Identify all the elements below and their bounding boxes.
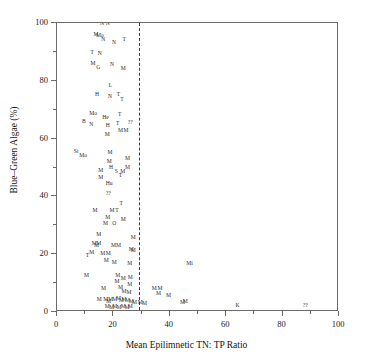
data-point: T bbox=[91, 51, 94, 57]
data-point: M bbox=[93, 208, 98, 214]
data-point: T bbox=[118, 113, 121, 119]
data-point: Mi bbox=[186, 262, 193, 268]
data-point: H bbox=[95, 92, 99, 98]
data-point: M bbox=[121, 277, 126, 283]
x-tick-minor bbox=[197, 311, 198, 314]
data-point: M bbox=[121, 217, 126, 223]
data-point: M bbox=[166, 293, 171, 299]
data-point: K bbox=[235, 303, 239, 309]
data-point: M bbox=[105, 132, 110, 138]
data-point: M bbox=[84, 274, 89, 280]
data-point: T bbox=[116, 121, 119, 127]
x-tick-major bbox=[112, 311, 113, 316]
scatter-plot-figure: Blue–Green Algae (%) 020406080100 NNMMoN… bbox=[0, 0, 373, 363]
y-tick-label: 100 bbox=[22, 17, 48, 27]
data-point: M bbox=[94, 243, 99, 249]
data-point: H bbox=[106, 123, 110, 129]
data-point: T bbox=[120, 97, 123, 103]
x-axis-title: Mean Epilimnetic TN: TP Ratio bbox=[0, 340, 373, 350]
x-tick-label: 20 bbox=[108, 319, 117, 329]
data-point: T bbox=[115, 209, 118, 215]
data-point: M bbox=[125, 165, 130, 171]
data-point: M bbox=[96, 233, 101, 239]
data-point: M bbox=[131, 249, 136, 255]
data-point: M bbox=[112, 260, 117, 266]
data-point: Mo bbox=[89, 111, 97, 117]
data-point: N bbox=[89, 122, 93, 128]
data-point: S bbox=[115, 169, 118, 175]
data-point: M bbox=[124, 129, 129, 135]
data-point: T bbox=[122, 38, 125, 44]
data-point: N bbox=[108, 94, 112, 100]
data-point: M bbox=[103, 222, 108, 228]
x-tick-major bbox=[56, 311, 57, 316]
data-point: T bbox=[119, 173, 122, 179]
x-tick-major bbox=[169, 311, 170, 316]
data-point: M bbox=[127, 262, 132, 268]
x-tick-major bbox=[225, 311, 226, 316]
data-point: M bbox=[121, 66, 126, 72]
y-tick-label: 40 bbox=[22, 190, 48, 200]
y-axis-title: Blue–Green Algae (%) bbox=[9, 50, 19, 250]
y-tick-label: 0 bbox=[22, 306, 48, 316]
x-tick-minor bbox=[253, 311, 254, 314]
data-point: B bbox=[82, 119, 86, 125]
data-point: St bbox=[74, 149, 79, 155]
x-tick-minor bbox=[84, 311, 85, 314]
x-tick-label: 40 bbox=[165, 319, 174, 329]
data-point: M bbox=[101, 287, 106, 293]
data-point: N bbox=[106, 22, 110, 27]
data-point: G bbox=[96, 66, 100, 72]
data-point: N bbox=[98, 51, 102, 57]
y-tick-label: 20 bbox=[22, 248, 48, 258]
data-point: M bbox=[116, 243, 121, 249]
y-tick-label: 60 bbox=[22, 133, 48, 143]
x-tick-minor bbox=[141, 311, 142, 314]
data-point: ?? bbox=[303, 303, 308, 309]
y-tick-label: 80 bbox=[22, 75, 48, 85]
data-point: M bbox=[183, 299, 188, 305]
x-tick-label: 0 bbox=[54, 319, 58, 329]
data-point: O bbox=[112, 222, 116, 228]
data-point: M bbox=[89, 251, 94, 257]
x-tick-label: 80 bbox=[277, 319, 286, 329]
data-point: He bbox=[102, 116, 109, 122]
data-point: N bbox=[101, 38, 105, 44]
data-point: ?? bbox=[128, 120, 133, 126]
data-point: M bbox=[108, 150, 113, 156]
data-point: N bbox=[112, 40, 116, 46]
data-point: M bbox=[126, 290, 131, 296]
data-point: M bbox=[142, 301, 147, 307]
x-tick-minor bbox=[310, 311, 311, 314]
x-tick-label: 60 bbox=[221, 319, 230, 329]
data-point: M bbox=[100, 251, 105, 257]
data-point: H bbox=[109, 165, 113, 171]
data-point: M bbox=[106, 251, 111, 257]
data-point: M bbox=[118, 129, 123, 135]
data-point: N bbox=[110, 62, 114, 68]
data-point: M bbox=[156, 291, 161, 297]
data-point: M bbox=[98, 175, 103, 181]
data-point: M bbox=[125, 156, 130, 162]
plot-area: NNMMoNNTTNMGNMLHNTTMoBNHeTT??HMMMStMoMMM… bbox=[56, 22, 338, 311]
data-point: M bbox=[128, 304, 133, 310]
data-point: M bbox=[131, 236, 136, 242]
data-point: T bbox=[120, 201, 123, 207]
data-point: Hu bbox=[106, 181, 113, 187]
data-point: M bbox=[127, 282, 132, 288]
data-point: ?? bbox=[106, 191, 111, 197]
data-point: Mo bbox=[79, 153, 87, 159]
data-point: L bbox=[109, 83, 112, 89]
data-point: M bbox=[91, 61, 96, 67]
x-tick-major bbox=[338, 311, 339, 316]
data-point: M bbox=[97, 297, 102, 303]
data-point: M bbox=[104, 259, 109, 265]
x-tick-label: 100 bbox=[332, 319, 345, 329]
data-point: N bbox=[100, 22, 104, 27]
data-point: M bbox=[109, 208, 114, 214]
x-tick-major bbox=[282, 311, 283, 316]
threshold-dashed-line bbox=[139, 23, 140, 310]
